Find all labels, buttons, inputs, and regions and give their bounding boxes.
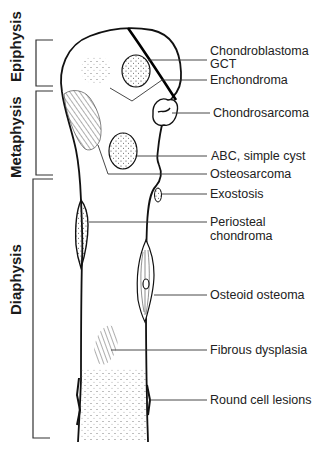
region-label-metaphysis: Metaphysis [7,96,24,178]
label-enchondroma: Enchondroma [210,73,288,87]
label-osteoid-osteoma: Osteoid osteoma [210,288,305,302]
lesion-periosteal-chondroma [76,200,88,268]
label-chondroma: chondroma [210,229,273,243]
label-periosteal: Periosteal [210,215,266,229]
label-chondroblastoma: Chondroblastoma [210,44,309,58]
label-abc: ABC, simple cyst [211,149,306,163]
bone-lesion-diagram: Epiphysis Metaphysis Diaphysis [0,0,336,453]
label-fibrous-dysplasia: Fibrous dysplasia [210,343,307,357]
lesion-osteosarcoma [64,91,101,150]
lesion-chondrosarcoma [153,99,178,125]
bracket-diaphysis [33,179,53,438]
label-exostosis: Exostosis [210,187,264,201]
bracket-metaphysis [36,91,53,175]
lesion-abc [109,133,137,169]
leader-enchondroma [110,80,207,101]
lesion-round-cell [80,368,147,440]
lesion-chondroblastoma [122,55,150,87]
label-gct: GCT [210,57,237,71]
bracket-epiphysis [36,40,53,86]
region-label-diaphysis: Diaphysis [7,244,24,315]
label-chondrosarcoma: Chondrosarcoma [213,106,309,120]
label-osteosarcoma: Osteosarcoma [210,167,291,181]
lesion-exostosis [155,188,162,202]
label-round-cell: Round cell lesions [210,393,311,407]
lesion-osteoid-osteoma [137,240,154,322]
lesion-epiphyseal-stipple [81,56,111,84]
region-label-epiphysis: Epiphysis [7,11,24,82]
lesion-fibrous-dysplasia [90,323,122,367]
